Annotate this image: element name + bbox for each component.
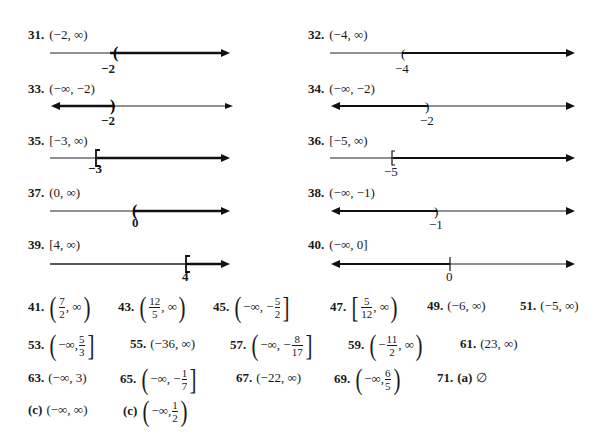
interval-rest: , ∞ — [373, 299, 389, 315]
problem-number: 40. — [308, 237, 324, 252]
problem-number: 61. — [460, 336, 476, 352]
open-bracket: [ — [352, 292, 359, 322]
empty-set-symbol: ∅ — [476, 370, 487, 386]
part-label: (c) — [28, 402, 42, 418]
fraction: 65 — [385, 367, 391, 392]
svg-text:): ) — [425, 99, 429, 114]
interval-rest: , ∞ — [161, 299, 177, 315]
number-line-36 — [325, 145, 585, 175]
number-line-37: ( — [45, 198, 235, 228]
fraction: 112 — [387, 333, 398, 358]
answer-63: 63. (−∞, 3) — [28, 370, 87, 386]
interval-pre: −∞, − — [243, 299, 273, 315]
numerator: 5 — [79, 333, 85, 345]
open-paren: ( — [50, 330, 57, 360]
number-line-33: ) — [45, 93, 235, 123]
close-bracket: ] — [190, 364, 197, 394]
fraction: 512 — [361, 295, 372, 320]
interval-rest: , ∞ — [398, 337, 414, 353]
denominator: 2 — [389, 346, 395, 358]
answer-45: 45. ( −∞, − 52 ] — [213, 292, 291, 322]
answer-51: 51. (−5, ∞) — [520, 298, 579, 314]
answer-59: 59. ( − 112 , ∞ ) — [348, 330, 424, 360]
answer-41: 41. ( 72 , ∞ ) — [28, 292, 92, 322]
fraction: 72 — [59, 295, 65, 320]
numerator: 7 — [59, 295, 65, 307]
denominator: 2 — [172, 412, 178, 424]
close-paren: ) — [391, 292, 398, 322]
interval-pre: −∞, − — [260, 337, 290, 353]
problem-39-label: 39.[4, ∞) — [28, 238, 80, 252]
denominator: 2 — [275, 308, 281, 320]
svg-text:(: ( — [401, 46, 405, 61]
answer-69: 69. ( −∞, 65 ) — [334, 364, 402, 394]
numerator: 5 — [275, 295, 281, 307]
open-paren: ( — [252, 330, 259, 360]
interval-pre: −∞, — [364, 371, 384, 387]
problem-number: 45. — [213, 299, 229, 315]
numerator: 11 — [387, 333, 398, 345]
numerator: 6 — [385, 367, 391, 379]
problem-number: 38. — [308, 185, 324, 200]
problem-40-label: 40.(−∞, 0] — [308, 238, 368, 252]
tick-label: 4 — [182, 270, 189, 284]
denominator: 17 — [292, 346, 303, 358]
numerator: 12 — [149, 295, 160, 307]
tick-label: −5 — [384, 165, 398, 179]
close-paren: ) — [393, 364, 400, 394]
answer-43: 43. ( 125 , ∞ ) — [118, 292, 187, 322]
interval-pre: −∞, — [58, 337, 78, 353]
answer-49: 49. (−6, ∞) — [427, 298, 486, 314]
denominator: 12 — [361, 308, 372, 320]
close-bracket: ] — [305, 330, 312, 360]
problem-number: 59. — [348, 337, 364, 353]
tick-label: −2 — [420, 114, 434, 128]
problem-number: 43. — [118, 299, 134, 315]
problem-number: 71. — [437, 370, 453, 386]
problem-number: 31. — [28, 27, 44, 42]
answer-67: 67. (−22, ∞) — [236, 370, 301, 386]
open-paren: ( — [370, 330, 377, 360]
tick-label: −3 — [88, 162, 102, 176]
answer-c2: (c) ( −∞, 12 ) — [123, 396, 189, 426]
fraction: 52 — [275, 295, 281, 320]
interval-text: (−∞, 3) — [48, 370, 86, 386]
open-paren: ( — [356, 364, 363, 394]
problem-number: 35. — [28, 133, 44, 148]
fraction: 53 — [79, 333, 85, 358]
denominator: 7 — [182, 380, 188, 392]
denominator: 3 — [79, 346, 85, 358]
problem-number: 32. — [308, 27, 324, 42]
open-paren: ( — [50, 292, 57, 322]
denominator: 2 — [59, 308, 65, 320]
number-line-35 — [45, 145, 235, 175]
tick-label: −4 — [395, 62, 409, 76]
problem-number: 69. — [334, 371, 350, 387]
open-paren: ( — [140, 292, 147, 322]
fraction: 817 — [292, 333, 303, 358]
interval-pre: −∞, − — [150, 371, 180, 387]
numerator: 5 — [364, 295, 370, 307]
fraction: 17 — [182, 367, 188, 392]
close-paren: ) — [179, 292, 186, 322]
number-line-39 — [45, 251, 235, 281]
answer-47: 47. [ 512 , ∞ ) — [330, 292, 399, 322]
denominator: 5 — [152, 308, 158, 320]
answer-53: 53. ( −∞, 53 ] — [28, 330, 96, 360]
interval-text: (−22, ∞) — [256, 370, 301, 386]
problem-number: 57. — [230, 337, 246, 353]
close-paren: ) — [83, 292, 90, 322]
interval-rest: , ∞ — [66, 299, 82, 315]
close-bracket: ] — [283, 292, 290, 322]
svg-text:(: ( — [113, 44, 118, 62]
problem-number: 41. — [28, 299, 44, 315]
tick-label: 0 — [132, 216, 139, 230]
fraction: 12 — [172, 399, 178, 424]
close-bracket: ] — [87, 330, 94, 360]
problem-number: 47. — [330, 299, 346, 315]
problem-number: 49. — [427, 298, 443, 314]
problem-number: 33. — [28, 81, 44, 96]
interval-pre: − — [378, 337, 385, 353]
problem-number: 37. — [28, 185, 44, 200]
tick-label: −1 — [429, 218, 443, 232]
